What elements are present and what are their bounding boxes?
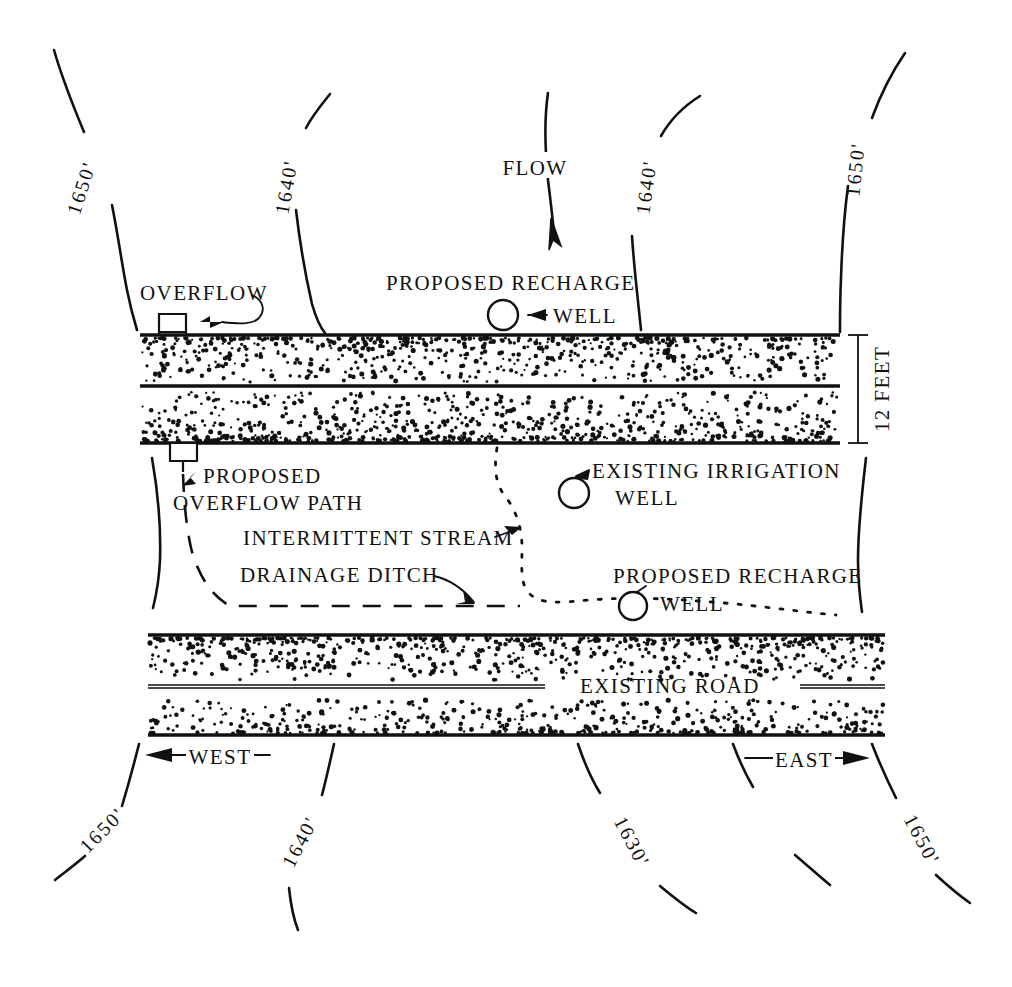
proposed-recharge-well-label-bottom: WELL: [660, 592, 724, 616]
existing-irrigation-well-label-line1: EXISTING IRRIGATION: [592, 459, 841, 483]
proposed-recharge-well-label-top: WELL: [553, 304, 617, 328]
proposed-recharge-label-bottom: PROPOSED RECHARGE: [613, 564, 863, 588]
flow-label: FLOW: [502, 156, 567, 180]
overflow-structure-bottom-icon: [170, 443, 197, 461]
overflow-label: OVERFLOW: [140, 281, 268, 305]
existing-irrigation-well-symbol: [559, 478, 589, 508]
site-plan-svg: 1650' 1640' 1640' 1650' FLOW: [0, 0, 1012, 987]
proposed-overflow-path-label-line1: PROPOSED: [203, 464, 322, 488]
canal-width-label: 12 FEET: [870, 346, 894, 432]
west-label: WEST: [189, 745, 252, 769]
overflow-structure-top-icon: [159, 314, 186, 332]
drainage-ditch-label: DRAINAGE DITCH: [240, 563, 439, 587]
proposed-overflow-path-label-line2: OVERFLOW PATH: [173, 491, 363, 515]
east-label: EAST: [775, 748, 833, 772]
proposed-recharge-well-bottom-symbol: [619, 592, 647, 620]
diagram-canvas: 1650' 1640' 1640' 1650' FLOW: [0, 0, 1012, 987]
proposed-recharge-well-top-symbol: [488, 300, 518, 330]
existing-irrigation-well-label-line2: WELL: [615, 486, 679, 510]
intermittent-stream-label: INTERMITTENT STREAM: [243, 526, 514, 550]
proposed-recharge-label-top: PROPOSED RECHARGE: [386, 271, 636, 295]
